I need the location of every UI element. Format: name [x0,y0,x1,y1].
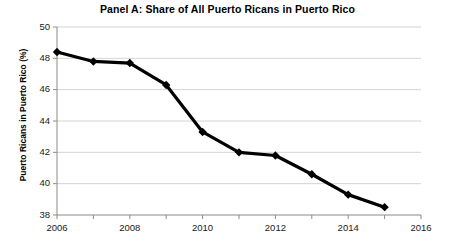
x-tick-label-2012: 2012 [255,222,295,233]
plot-area [0,0,455,245]
gridlines [57,27,421,184]
chart-container: Panel A: Share of All Puerto Ricans in P… [0,0,455,245]
data-point-markers [53,48,389,212]
x-tick-label-2006: 2006 [37,222,77,233]
y-tick-label-38: 38 [26,209,50,220]
tick-marks [53,27,421,219]
y-tick-label-42: 42 [26,146,50,157]
x-tick-label-2010: 2010 [183,222,223,233]
x-tick-label-2016: 2016 [401,222,441,233]
y-tick-label-44: 44 [26,115,50,126]
y-tick-label-48: 48 [26,52,50,63]
x-tick-label-2008: 2008 [110,222,150,233]
y-tick-label-50: 50 [26,21,50,32]
y-tick-label-40: 40 [26,177,50,188]
y-tick-label-46: 46 [26,83,50,94]
x-tick-label-2014: 2014 [328,222,368,233]
